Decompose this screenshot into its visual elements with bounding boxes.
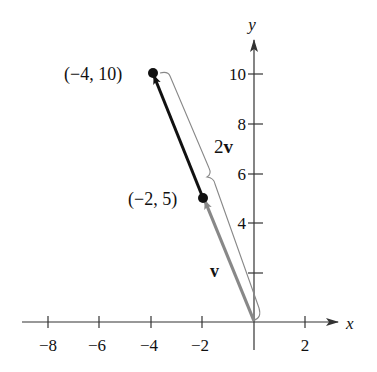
x-tick-label: −2 (191, 336, 209, 355)
vector-label-v: v (210, 261, 219, 281)
vector-label-2v-scalar: 2 (214, 136, 224, 157)
y-tick-label: 4 (238, 214, 247, 233)
y-tick-label: 10 (229, 65, 246, 84)
point-neg2-5 (198, 193, 208, 203)
point-label-a: (−4, 10) (64, 64, 122, 85)
x-tick-label: 2 (301, 336, 310, 355)
y-tick-label: 8 (238, 115, 247, 134)
vector-label-2v: 2v (214, 136, 234, 157)
x-tick-label: −8 (39, 336, 57, 355)
vector-diagram: x −8 −6 −4 −2 2 y 10 8 6 4 (−4, 10) (−2,… (0, 0, 377, 372)
y-axis (248, 40, 263, 350)
x-axis-label: x (345, 314, 354, 333)
x-tick-label: −4 (140, 336, 159, 355)
point-label-b: (−2, 5) (128, 189, 177, 210)
y-tick-label: 6 (238, 165, 247, 184)
point-neg4-10 (148, 68, 158, 78)
y-axis-label: y (246, 15, 256, 34)
x-axis (22, 316, 338, 328)
vector-label-2v-vec: v (224, 136, 234, 157)
x-tick-label: −6 (88, 336, 106, 355)
